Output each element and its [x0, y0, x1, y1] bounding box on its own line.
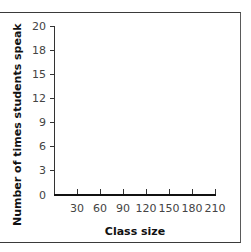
y-tick-12	[50, 98, 54, 99]
y-tick-label-12: 12	[26, 93, 46, 104]
x-tick-150	[169, 189, 170, 194]
y-tick-label-15: 15	[26, 69, 46, 80]
x-tick-60	[100, 189, 101, 194]
y-tick-6	[50, 146, 54, 147]
y-axis-line	[54, 26, 55, 196]
x-axis-line	[54, 194, 216, 196]
y-tick-label-6: 6	[26, 141, 46, 152]
y-tick-9	[50, 122, 54, 123]
y-tick-15	[50, 74, 54, 75]
x-axis-title: Class size	[95, 226, 175, 238]
y-tick-label-3: 3	[26, 165, 46, 176]
x-tick-120	[146, 189, 147, 194]
y-tick-label-0: 0	[26, 190, 46, 201]
y-tick-20	[50, 26, 54, 27]
x-tick-210	[215, 189, 216, 194]
y-axis-title: Number of times students speak	[12, 26, 24, 226]
y-tick-3	[50, 170, 54, 171]
y-tick-18	[50, 50, 54, 51]
y-tick-label-9: 9	[26, 117, 46, 128]
x-tick-label-210: 210	[200, 203, 230, 214]
x-tick-30	[77, 189, 78, 194]
x-tick-180	[192, 189, 193, 194]
x-tick-90	[123, 189, 124, 194]
y-tick-label-18: 18	[26, 45, 46, 56]
y-tick-label-20: 20	[26, 21, 46, 32]
